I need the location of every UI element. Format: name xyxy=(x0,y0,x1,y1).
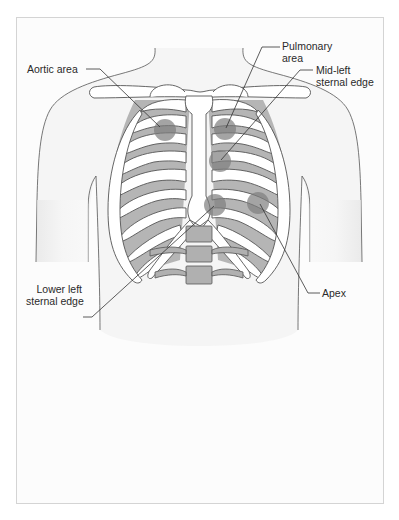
label-pulmonary-line2: area xyxy=(282,52,332,64)
label-lower-left-sternal-edge: Lower left sternal edge xyxy=(26,283,82,307)
label-pulmonary-line1: Pulmonary xyxy=(282,40,332,52)
marker-aortic xyxy=(154,119,176,141)
label-apex: Apex xyxy=(322,287,346,299)
label-mid-left-line2: sternal edge xyxy=(316,76,374,88)
label-mid-left-sternal-edge: Mid-left sternal edge xyxy=(316,64,374,88)
label-lower-left-line1: Lower left xyxy=(26,283,82,295)
label-mid-left-line1: Mid-left xyxy=(316,64,374,76)
label-apex-text: Apex xyxy=(322,287,346,299)
label-aortic-text: Aortic area xyxy=(27,63,78,75)
marker-apex xyxy=(247,192,269,214)
label-lower-left-line2: sternal edge xyxy=(26,295,82,307)
label-aortic-area: Aortic area xyxy=(27,63,78,75)
marker-pulmonary xyxy=(214,118,236,140)
label-pulmonary-area: Pulmonary area xyxy=(282,40,332,64)
marker-mid-left-sternal-edge xyxy=(209,150,231,172)
marker-lower-left-sternal-edge xyxy=(204,194,226,216)
